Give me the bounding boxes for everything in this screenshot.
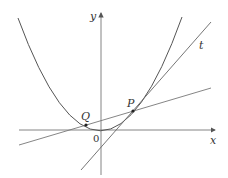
point-p-label: P bbox=[126, 97, 135, 110]
y-axis-label: y bbox=[89, 10, 97, 23]
point-q-label: Q bbox=[81, 110, 90, 123]
parabola-curve bbox=[18, 17, 182, 131]
origin-label: 0 bbox=[93, 133, 99, 144]
secant-line-pq bbox=[19, 88, 211, 145]
tangent-label: t bbox=[199, 39, 204, 52]
x-axis-label: x bbox=[210, 134, 217, 147]
diagram-canvas: y x 0 P Q t bbox=[0, 0, 228, 178]
tangent-line-t bbox=[81, 22, 211, 170]
point-q bbox=[84, 123, 87, 126]
